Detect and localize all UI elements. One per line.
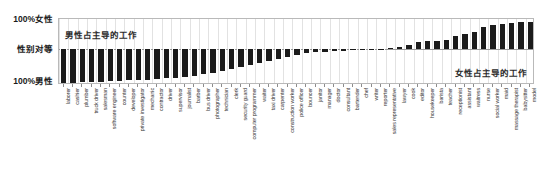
x-axis-label: editor bbox=[419, 88, 425, 101]
x-axis-tick bbox=[464, 84, 465, 87]
x-axis-tick bbox=[91, 84, 92, 87]
x-axis-label: babysitter bbox=[522, 88, 528, 110]
bar bbox=[377, 49, 384, 50]
bar bbox=[321, 49, 328, 52]
x-axis-label: technician bbox=[223, 88, 229, 111]
x-axis-tick bbox=[399, 84, 400, 87]
x-axis-tick bbox=[184, 84, 185, 87]
x-axis-label: security guard bbox=[242, 88, 248, 120]
y-axis: 100%女性 性别对等 100%男性 bbox=[0, 12, 56, 86]
x-axis-tick bbox=[417, 84, 418, 87]
bar bbox=[60, 49, 67, 83]
x-axis-label: writer bbox=[373, 88, 379, 101]
x-axis-tick bbox=[389, 84, 390, 87]
bar bbox=[256, 49, 263, 63]
x-axis-tick bbox=[445, 84, 446, 87]
x-axis-label: construction worker bbox=[289, 88, 295, 133]
bar bbox=[340, 49, 347, 51]
x-axis-label: mechanic bbox=[149, 88, 155, 110]
x-axis-tick bbox=[296, 84, 297, 87]
x-axis-tick bbox=[231, 84, 232, 87]
x-axis-label: reporter bbox=[382, 88, 388, 106]
bar bbox=[387, 48, 394, 49]
x-axis-tick bbox=[81, 84, 82, 87]
x-axis-label: carpenter bbox=[279, 88, 285, 110]
bar bbox=[163, 49, 170, 79]
x-axis-label: driver bbox=[167, 88, 173, 101]
bar bbox=[312, 49, 319, 53]
x-axis-tick bbox=[361, 84, 362, 87]
x-axis-tick bbox=[315, 84, 316, 87]
x-axis-tick bbox=[240, 84, 241, 87]
bar bbox=[97, 49, 104, 82]
x-axis-tick bbox=[380, 84, 381, 87]
x-axis-tick bbox=[100, 84, 101, 87]
bar bbox=[200, 49, 207, 74]
x-axis-label: bouncer bbox=[307, 88, 313, 107]
annotation-male-dominated: 男性占主导的工作 bbox=[65, 28, 137, 40]
x-axis-tick bbox=[305, 84, 306, 87]
bar bbox=[331, 49, 338, 51]
x-axis-tick bbox=[483, 84, 484, 87]
x-axis-label: assistant bbox=[466, 88, 472, 108]
bar bbox=[461, 34, 468, 49]
x-axis-label: doctor bbox=[335, 88, 341, 102]
x-axis-label: receptionist bbox=[457, 88, 463, 114]
x-axis-label: lawyer bbox=[401, 88, 407, 103]
x-axis-label: waiter bbox=[261, 88, 267, 102]
x-axis-label: consultant bbox=[345, 88, 351, 112]
bar bbox=[405, 45, 412, 49]
x-axis-tick bbox=[249, 84, 250, 87]
x-axis-tick bbox=[324, 84, 325, 87]
bar bbox=[527, 22, 534, 49]
bar bbox=[79, 49, 86, 82]
x-axis-tick bbox=[137, 84, 138, 87]
x-axis-tick bbox=[511, 84, 512, 87]
x-axis-label: waitress bbox=[475, 88, 481, 107]
x-axis-label: supervisor bbox=[177, 88, 183, 112]
x-axis-tick bbox=[473, 84, 474, 87]
x-axis-tick bbox=[371, 84, 372, 87]
x-axis-tick bbox=[529, 84, 530, 87]
y-axis-label-parity: 性别对等 bbox=[17, 42, 53, 54]
x-axis-tick bbox=[203, 84, 204, 87]
gender-dominated-jobs-chart: 100%女性 性别对等 100%男性 男性占主导的工作 女性占主导的工作 lab… bbox=[0, 0, 559, 170]
x-axis-tick bbox=[520, 84, 521, 87]
bar bbox=[424, 41, 431, 48]
x-axis-label: chef bbox=[363, 88, 369, 98]
x-axis-tick bbox=[259, 84, 260, 87]
x-axis-label: salesman bbox=[102, 88, 108, 110]
bar bbox=[144, 49, 151, 80]
bar bbox=[284, 49, 291, 57]
bar bbox=[415, 42, 422, 48]
bar bbox=[359, 49, 366, 50]
x-axis-tick bbox=[165, 84, 166, 87]
x-axis-label: manager bbox=[326, 88, 332, 109]
x-axis-tick bbox=[119, 84, 120, 87]
x-axis-label: photographer bbox=[214, 88, 220, 119]
bar bbox=[480, 27, 487, 49]
x-axis-label: sales representative bbox=[391, 88, 397, 134]
x-axis-label: computer programmer bbox=[251, 88, 257, 139]
y-axis-label-male-100: 100%男性 bbox=[13, 74, 53, 86]
bar bbox=[303, 49, 310, 54]
x-axis-label: taxi driver bbox=[270, 88, 276, 110]
bar bbox=[237, 49, 244, 67]
x-axis-label: janitor bbox=[317, 88, 323, 102]
plot-area: 男性占主导的工作 女性占主导的工作 bbox=[58, 18, 534, 84]
x-axis: laborercashierplumbertruck driversalesma… bbox=[58, 84, 534, 170]
bar bbox=[368, 49, 375, 50]
bar bbox=[181, 49, 188, 77]
x-axis-label: journalist bbox=[186, 88, 192, 109]
x-axis-tick bbox=[492, 84, 493, 87]
bar bbox=[517, 22, 524, 49]
bar bbox=[219, 49, 226, 72]
x-axis-tick bbox=[455, 84, 456, 87]
y-axis-label-female-100: 100%女性 bbox=[13, 12, 53, 24]
x-axis-tick bbox=[343, 84, 344, 87]
x-axis-tick bbox=[156, 84, 157, 87]
bar bbox=[471, 32, 478, 49]
x-axis-tick bbox=[333, 84, 334, 87]
x-axis-label: clerk bbox=[233, 88, 239, 99]
x-axis-label: bartender bbox=[354, 88, 360, 110]
